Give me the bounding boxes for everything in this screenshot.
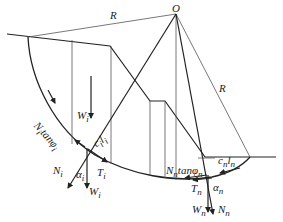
weight-label-n: Wn (192, 204, 206, 218)
center-label: O (172, 3, 180, 14)
slip-circle-arc (28, 37, 250, 179)
radius-label-right: R (219, 83, 226, 94)
friction-label-n: Nntanφn (166, 165, 203, 179)
radius-label-top: R (110, 10, 117, 21)
friction-arrow-i (48, 90, 55, 103)
normal-label-n: Nn (218, 204, 230, 218)
alpha-label-i: αi (76, 169, 84, 183)
radius-line-right (176, 14, 250, 157)
shear-label-n: Tn (191, 183, 202, 197)
slope-stability-diagram (0, 0, 283, 222)
cohesion-label-n: cnln (218, 155, 235, 169)
normal-label-i: Ni (53, 165, 63, 179)
weight-label-slice-i: Wi (77, 110, 89, 124)
shear-arrow-i (88, 149, 107, 162)
weight-vector-label-i: Wi (89, 186, 101, 200)
radius-line-top (28, 14, 176, 37)
shear-label-i: Ti (97, 167, 106, 181)
alpha-label-n: αn (213, 182, 223, 196)
friction-arrow-i-base (75, 140, 85, 147)
